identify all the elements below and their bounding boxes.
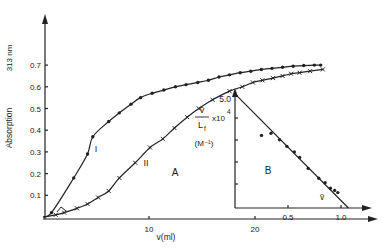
data-point-I — [184, 83, 187, 86]
inset-data-point — [323, 181, 326, 184]
data-point-I — [196, 81, 199, 84]
y-tick-label: 0.3 — [30, 148, 42, 157]
data-point-II — [117, 176, 121, 180]
inset-data-point — [333, 189, 336, 192]
y-tick-label: 0.5 — [30, 105, 42, 114]
inset-data-point — [278, 138, 281, 141]
curve-II — [43, 69, 323, 217]
data-point-I — [86, 152, 89, 155]
y-tick-label: 0.4 — [30, 126, 42, 135]
inset-y-label-multiplier: x10 — [212, 114, 225, 123]
inset-fit-line — [235, 94, 348, 208]
y-tick-label: 0.2 — [30, 170, 42, 179]
curve-I-label: I — [95, 144, 98, 154]
data-point-II — [172, 126, 176, 130]
data-point-II — [185, 115, 189, 119]
data-point-I — [50, 211, 53, 214]
data-point-I — [249, 69, 252, 72]
data-point-I — [118, 111, 121, 114]
inset-data-point — [285, 145, 288, 148]
data-point-I — [174, 85, 177, 88]
inset-data-point — [298, 156, 301, 159]
inset-data-point — [293, 150, 296, 153]
data-point-I — [281, 66, 284, 69]
y-tick-label: 0.7 — [30, 61, 42, 70]
data-point-I — [313, 63, 316, 66]
data-point-I — [207, 79, 210, 82]
y-tick-label: 0.1 — [30, 191, 42, 200]
data-point-I — [319, 63, 322, 66]
inset-y-label-denominator: L — [198, 120, 203, 130]
inset-data-point — [306, 167, 309, 170]
panel-B-label: B — [265, 165, 272, 176]
data-point-I — [139, 96, 142, 99]
inset-data-point — [260, 134, 263, 137]
data-point-I — [260, 68, 263, 71]
inset-y-label-subscript: f — [204, 125, 206, 132]
data-point-II — [148, 146, 152, 150]
inset-y-label-exponent: 4 — [227, 108, 231, 115]
origin-mark — [57, 207, 66, 212]
data-point-I — [129, 102, 132, 105]
x-axis-arrow-icon — [368, 216, 378, 222]
data-point-II — [211, 98, 215, 102]
y-tick-label: 0.6 — [30, 83, 42, 92]
data-point-II — [107, 189, 111, 193]
data-point-I — [238, 71, 241, 74]
curve-II-label: II — [143, 158, 148, 168]
y-axis-label: Absorption — [4, 107, 14, 148]
data-point-I — [162, 88, 165, 91]
data-point-I — [91, 135, 94, 138]
data-point-I — [270, 67, 273, 70]
inset-data-point — [336, 191, 339, 194]
data-point-II — [86, 202, 90, 206]
data-point-II — [161, 137, 165, 141]
panel-A-label: A — [172, 167, 179, 178]
y-axis-arrow-icon — [42, 14, 48, 24]
data-point-I — [302, 64, 305, 67]
data-point-I — [150, 92, 153, 95]
data-point-I — [228, 73, 231, 76]
inset-data-point — [269, 132, 272, 135]
inset-x-tick-label: 0.5 — [282, 213, 294, 222]
inset-y-label-unit: (M⁻¹) — [195, 139, 214, 148]
data-point-I — [291, 64, 294, 67]
inset-y-tick-label: 5.0 — [219, 94, 231, 104]
data-point-I — [217, 75, 220, 78]
inset-data-point — [329, 187, 332, 190]
chart: 0.10.20.30.40.50.60.71020v(ml)Absorption… — [0, 0, 382, 250]
x-tick-label: 20 — [251, 225, 260, 234]
inset-y-label-numerator: v̄ — [200, 105, 205, 115]
inset-x-arrow-icon — [362, 205, 372, 211]
inset-x-axis-label: v̄ — [320, 192, 325, 202]
data-point-II — [96, 195, 100, 199]
inset-data-point — [317, 177, 320, 180]
inset-x-tick-label: 1.0 — [335, 213, 347, 222]
x-axis-label: v(ml) — [157, 232, 176, 242]
data-point-I — [72, 176, 75, 179]
data-point-II — [133, 161, 137, 165]
data-point-I — [107, 120, 110, 123]
y-axis-unit: 313 nm — [5, 44, 14, 71]
x-tick-label: 10 — [145, 225, 154, 234]
